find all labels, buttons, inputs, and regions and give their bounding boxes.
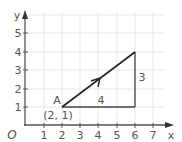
y-tick-label: 5: [15, 27, 22, 40]
x-tick-label: 6: [132, 129, 139, 142]
horizontal-leg-label: 4: [98, 94, 105, 107]
x-tick-label: 4: [95, 129, 102, 142]
x-tick-label: 7: [150, 129, 157, 142]
coordinate-diagram: 1 2 3 4 5 6 7 x 1 2 3 4 5 y O 4 3 A (2, …: [0, 0, 182, 142]
origin-label: O: [7, 128, 16, 142]
point-a-coords: (2, 1): [43, 109, 73, 122]
x-tick-label: 5: [114, 129, 121, 142]
x-axis-arrow-icon: [165, 122, 174, 128]
x-tick-label: 3: [77, 129, 84, 142]
x-axis-label: x: [168, 129, 175, 142]
y-tick-label: 2: [15, 83, 22, 96]
point-a-name: A: [53, 94, 61, 107]
vertical-leg-label: 3: [139, 71, 146, 84]
x-tick-label: 2: [59, 129, 66, 142]
y-tick-label: 3: [15, 64, 22, 77]
y-axis-label: y: [14, 9, 21, 22]
x-tick-label: 1: [41, 129, 48, 142]
y-tick-label: 4: [15, 46, 22, 59]
y-tick-label: 1: [15, 101, 22, 114]
